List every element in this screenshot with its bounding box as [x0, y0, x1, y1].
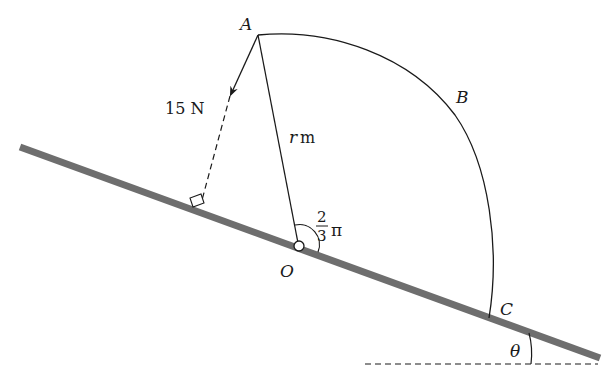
label-a: A [238, 14, 252, 34]
label-c: C [500, 299, 513, 319]
radius-label-unit: m [300, 128, 315, 147]
angle-denominator: 3 [317, 227, 327, 245]
theta-label: θ [510, 341, 520, 361]
radius-label-var: r [289, 127, 298, 147]
angle-numerator: 2 [317, 208, 327, 226]
force-line-of-action [202, 96, 230, 200]
label-b: B [455, 87, 469, 107]
label-o: O [280, 261, 294, 281]
force-label: 15 N [165, 99, 204, 118]
mechanics-diagram: A B C O 15 N r m 2 3 π θ [0, 0, 607, 367]
right-angle-marker [190, 194, 204, 207]
force-arrow [232, 35, 258, 92]
inclined-rod [20, 147, 600, 358]
theta-angle-arc [529, 333, 532, 364]
pivot-point-o [294, 241, 304, 251]
angle-pi: π [331, 220, 342, 240]
